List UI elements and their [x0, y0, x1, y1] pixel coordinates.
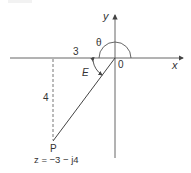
horizontal-dim: 3: [73, 46, 79, 57]
point-label: P: [50, 143, 57, 154]
theta-label: θ: [96, 37, 102, 48]
argand-diagram: y x 0 θ 3 4 E P z = −3 − j4: [0, 0, 191, 173]
y-label: y: [102, 10, 110, 22]
e-label: E: [82, 67, 89, 78]
equation-label: z = −3 − j4: [34, 154, 79, 165]
top-bar: [8, 0, 32, 3]
vertical-dim: 4: [43, 92, 49, 103]
origin-label: 0: [118, 59, 124, 70]
e-angle-arrow: [93, 61, 102, 75]
x-label: x: [171, 59, 178, 71]
